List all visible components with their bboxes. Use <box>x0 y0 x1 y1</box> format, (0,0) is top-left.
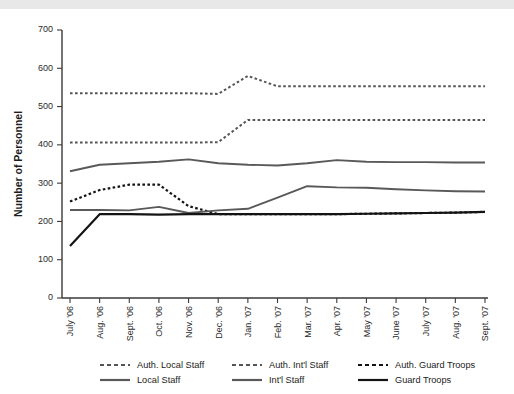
y-tick-label: 400 <box>38 139 53 149</box>
x-tick-label: Nov. '06 <box>184 306 194 338</box>
x-tick-label: Oct. '06 <box>154 306 164 337</box>
y-tick-label: 500 <box>38 101 53 111</box>
x-tick-label: Feb. '07 <box>273 306 283 338</box>
x-tick-label: Jan. '07 <box>243 306 253 337</box>
y-tick-label: 300 <box>38 178 53 188</box>
x-tick-label: Apr. '07 <box>332 306 342 336</box>
series-line-auth-int-l-staff <box>70 120 485 143</box>
y-tick-label: 100 <box>38 254 53 264</box>
series-lines <box>70 76 485 246</box>
y-axis-title: Number of Personnel <box>12 111 24 217</box>
x-tick-label: May '07 <box>362 306 372 337</box>
x-axis-ticks: July '06Aug. '06Sept. '06Oct. '06Nov. '0… <box>65 298 490 341</box>
y-tick-label: 600 <box>38 63 53 73</box>
y-tick-label: 200 <box>38 216 53 226</box>
y-tick-label: 0 <box>48 292 53 302</box>
x-tick-label: Aug. '07 <box>451 306 461 339</box>
y-tick-label: 700 <box>38 24 53 34</box>
personnel-line-chart: Number of Personnel 01002003004005006007… <box>0 0 514 394</box>
legend-label[interactable]: Guard Troops <box>395 375 452 385</box>
x-tick-label: July '07 <box>421 306 431 336</box>
x-tick-label: Sept. '07 <box>480 306 490 341</box>
x-tick-label: Mar. '07 <box>303 306 313 338</box>
legend-label[interactable]: Auth. Guard Troops <box>395 360 476 370</box>
y-axis-title-text: Number of Personnel <box>12 111 24 217</box>
series-line-int-l-staff <box>70 186 485 213</box>
legend-label[interactable]: Local Staff <box>137 375 181 385</box>
legend-label[interactable]: Int'l Staff <box>269 375 305 385</box>
y-axis-ticks: 0100200300400500600700 <box>38 24 62 302</box>
x-tick-label: Sept. '06 <box>125 306 135 341</box>
series-line-auth-local-staff <box>70 76 485 94</box>
chart-legend: Auth. Local StaffAuth. Int'l StaffAuth. … <box>100 360 476 385</box>
x-tick-label: June '07 <box>391 306 401 340</box>
legend-label[interactable]: Auth. Int'l Staff <box>269 360 329 370</box>
series-line-local-staff <box>70 159 485 171</box>
x-tick-label: Aug. '06 <box>95 306 105 339</box>
legend-label[interactable]: Auth. Local Staff <box>137 360 205 370</box>
series-line-guard-troops <box>70 212 485 246</box>
x-tick-label: July '06 <box>65 306 75 336</box>
x-tick-label: Dec. '06 <box>214 306 224 339</box>
chart-page: Number of Personnel 01002003004005006007… <box>0 0 514 394</box>
